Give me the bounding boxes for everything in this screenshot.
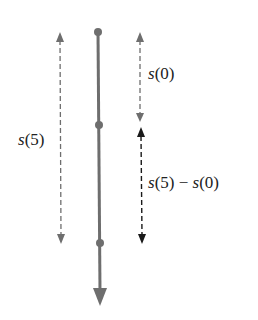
s0-func: s: [148, 64, 155, 83]
minus-sign: −: [174, 173, 192, 192]
point-s5: [96, 239, 104, 247]
s5-arrow: [56, 32, 65, 244]
s5-func: s: [18, 130, 25, 149]
displacement-diagram: [0, 0, 258, 320]
s5-arg: (5): [25, 130, 45, 149]
point-top: [94, 28, 102, 36]
difference-label: s(5) − s(0): [148, 173, 219, 193]
s0-label: s(0): [148, 64, 174, 84]
diff-arg-2: (0): [199, 173, 219, 192]
difference-arrow: [137, 127, 146, 244]
s0-arg: (0): [155, 64, 175, 83]
diff-arg-1: (5): [155, 173, 175, 192]
s0-arrow: [136, 32, 144, 122]
position-axis: [93, 28, 107, 306]
point-s0: [95, 121, 103, 129]
diff-func-1: s: [148, 173, 155, 192]
s5-label: s(5): [18, 130, 44, 150]
